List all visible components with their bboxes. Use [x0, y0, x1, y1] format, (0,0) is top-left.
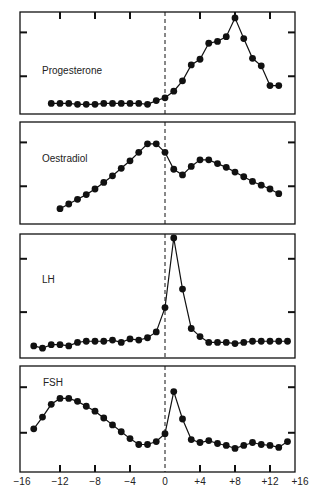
data-point — [162, 430, 169, 437]
data-point — [92, 101, 99, 108]
data-point — [65, 100, 72, 107]
data-point — [284, 338, 291, 345]
data-point — [240, 35, 247, 42]
data-point — [118, 428, 125, 435]
series-label: LH — [42, 274, 55, 285]
data-point — [240, 339, 247, 346]
data-point — [118, 339, 125, 346]
data-point — [170, 388, 177, 395]
data-point — [92, 338, 99, 345]
data-point — [232, 340, 239, 347]
x-tick-label: 0 — [162, 476, 168, 487]
data-point — [153, 329, 160, 336]
data-point — [57, 100, 64, 107]
data-point — [258, 182, 265, 189]
data-point — [179, 171, 186, 178]
data-point — [223, 33, 230, 40]
data-point — [162, 94, 169, 101]
data-point — [100, 100, 107, 107]
data-point — [74, 339, 81, 346]
data-point — [275, 338, 282, 345]
data-point — [92, 186, 99, 193]
data-point — [214, 440, 221, 447]
panel-fsh: FSH — [20, 366, 295, 472]
data-point — [109, 421, 116, 428]
data-point — [39, 345, 46, 352]
data-point — [249, 338, 256, 345]
data-point — [275, 190, 282, 197]
data-point — [267, 442, 274, 449]
data-point — [188, 436, 195, 443]
data-point — [223, 442, 230, 449]
series-label: Oestradiol — [42, 153, 88, 164]
series-line — [34, 238, 288, 348]
data-point — [144, 334, 151, 341]
data-point — [267, 338, 274, 345]
data-point — [83, 338, 90, 345]
data-point — [275, 444, 282, 451]
data-point — [83, 191, 90, 198]
data-point — [205, 156, 212, 163]
data-point — [197, 156, 204, 163]
data-point — [267, 82, 274, 89]
series-label: Progesterone — [42, 65, 102, 76]
data-point — [267, 186, 274, 193]
x-tick-label: +4 — [194, 476, 206, 487]
data-point — [109, 100, 116, 107]
data-point — [170, 166, 177, 173]
data-point — [48, 401, 55, 408]
data-point — [249, 439, 256, 446]
data-point — [179, 286, 186, 293]
data-point — [232, 169, 239, 176]
data-point — [170, 88, 177, 95]
data-point — [144, 101, 151, 108]
data-point — [144, 441, 151, 448]
series-line — [34, 392, 288, 449]
data-point — [179, 77, 186, 84]
data-point — [188, 325, 195, 332]
x-tick-label: −8 — [89, 476, 101, 487]
data-point — [214, 38, 221, 45]
data-point — [109, 337, 116, 344]
data-point — [275, 82, 282, 89]
data-point — [214, 160, 221, 167]
x-tick-label: −12 — [52, 476, 69, 487]
data-point — [100, 338, 107, 345]
data-point — [127, 435, 134, 442]
data-point — [249, 55, 256, 62]
data-point — [214, 339, 221, 346]
data-point — [65, 342, 72, 349]
data-point — [83, 101, 90, 108]
hormone-chart-figure: ProgesteroneOestradiolLHFSH −16−12−8−40+… — [0, 0, 317, 499]
data-point — [135, 100, 142, 107]
data-point — [100, 415, 107, 422]
data-point — [74, 398, 81, 405]
data-point — [135, 441, 142, 448]
x-tick-label: −16 — [14, 476, 31, 487]
data-point — [48, 100, 55, 107]
data-point — [30, 425, 37, 432]
data-point — [258, 338, 265, 345]
data-point — [39, 414, 46, 421]
data-point — [197, 333, 204, 340]
data-point — [240, 173, 247, 180]
data-point — [57, 395, 64, 402]
data-point — [188, 163, 195, 170]
data-point — [162, 304, 169, 311]
data-point — [92, 408, 99, 415]
data-point — [144, 140, 151, 147]
data-point — [205, 40, 212, 47]
data-point — [74, 101, 81, 108]
data-point — [258, 62, 265, 69]
data-point — [127, 336, 134, 343]
data-point — [127, 100, 134, 107]
x-tick-label: +8 — [229, 476, 241, 487]
data-point — [109, 172, 116, 179]
data-point — [127, 157, 134, 164]
data-point — [179, 416, 186, 423]
data-point — [188, 61, 195, 68]
data-point — [74, 196, 81, 203]
data-point — [232, 445, 239, 452]
data-point — [65, 395, 72, 402]
data-point — [153, 438, 160, 445]
